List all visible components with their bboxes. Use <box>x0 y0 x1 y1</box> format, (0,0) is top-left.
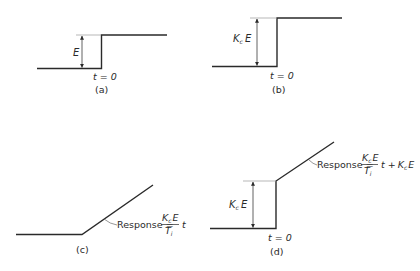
magnitude-label-d: KcE <box>229 199 248 211</box>
svg-text:KcE: KcE <box>162 212 179 224</box>
time-label-d: t = 0 <box>268 232 292 243</box>
magnitude-label-a: E <box>73 47 80 58</box>
time-label-a: t = 0 <box>93 71 117 82</box>
fraction-d: KcE Ti <box>361 152 379 177</box>
caption-d: (d) <box>270 246 283 257</box>
controller-response-figure: E t = 0 (a) KcE t = 0 (b) Response = KcE… <box>0 0 420 271</box>
pi-curve-d <box>210 142 334 229</box>
panel-c: Response = KcE Ti t (c) <box>16 185 187 255</box>
leader-line-d <box>309 160 317 165</box>
svg-text:KcE: KcE <box>362 152 379 164</box>
time-label-b: t = 0 <box>270 70 294 81</box>
fraction-c: KcE Ti <box>161 212 179 237</box>
caption-c: (c) <box>76 244 89 255</box>
response-suffix-d: t +KcE <box>381 159 414 171</box>
panel-d: KcE Response = KcE Ti t +KcE t = 0 (d) <box>210 142 414 257</box>
caption-a: (a) <box>95 84 108 95</box>
panel-b: KcE t = 0 (b) <box>212 18 342 95</box>
step-curve-b <box>212 18 342 67</box>
panel-a: E t = 0 (a) <box>37 35 167 95</box>
response-suffix-c: t <box>182 219 187 230</box>
caption-b: (b) <box>272 84 285 95</box>
magnitude-label-b: KcE <box>233 33 252 45</box>
step-curve-a <box>37 35 167 69</box>
leader-line-c <box>104 219 117 225</box>
